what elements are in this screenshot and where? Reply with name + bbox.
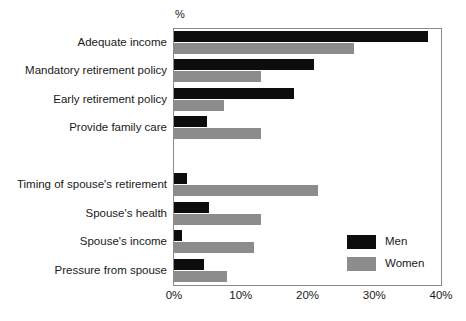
category-axis-labels: Adequate incomeMandatory retirement poli… [0, 29, 173, 285]
bar-women [174, 128, 261, 139]
legend-swatch-women [347, 257, 376, 271]
bar-men [174, 230, 182, 241]
category-label: Timing of spouse's retirement [1, 178, 173, 191]
bar-men [174, 88, 294, 99]
category-label: Spouse's income [1, 235, 173, 248]
bar-men [174, 116, 207, 127]
bar-men [174, 173, 187, 184]
category-label: Early retirement policy [1, 93, 173, 106]
axis-unit-label: % [175, 8, 185, 20]
bar-men [174, 59, 314, 70]
category-label: Provide family care [1, 121, 173, 134]
legend-label: Men [385, 234, 407, 249]
x-tick-label: 40% [429, 288, 452, 302]
legend-item: Women [347, 254, 435, 276]
chart-legend: MenWomen [347, 232, 435, 276]
bar-women [174, 185, 318, 196]
bar-women [174, 100, 224, 111]
bar-women [174, 271, 227, 282]
bar-women [174, 242, 254, 253]
bar-men [174, 259, 204, 270]
bar-women [174, 43, 354, 54]
category-label: Mandatory retirement policy [1, 64, 173, 77]
category-label: Spouse's health [1, 207, 173, 220]
x-tick-label: 10% [229, 288, 252, 302]
legend-label: Women [385, 256, 424, 271]
x-tick-label: 30% [363, 288, 386, 302]
category-label: Pressure from spouse [1, 264, 173, 277]
category-label: Adequate income [1, 36, 173, 49]
legend-item: Men [347, 232, 435, 254]
x-tick-label: 0% [166, 288, 183, 302]
bar-women [174, 214, 261, 225]
x-axis-tick-labels: 0%10%20%30%40% [0, 288, 466, 308]
bar-men [174, 202, 209, 213]
legend-swatch-men [347, 235, 376, 249]
bar-men [174, 31, 428, 42]
bar-chart: % Adequate incomeMandatory retirement po… [0, 0, 466, 321]
bar-women [174, 71, 261, 82]
x-tick-label: 20% [296, 288, 319, 302]
